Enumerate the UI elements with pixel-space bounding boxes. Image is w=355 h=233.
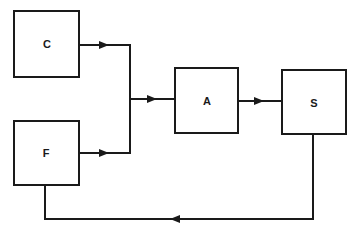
- arrow-head-icon: [254, 97, 264, 105]
- node-f: F: [14, 121, 79, 185]
- node-c-label: C: [43, 38, 51, 50]
- node-c: C: [14, 11, 79, 77]
- node-a-label: A: [203, 95, 211, 107]
- arrow-head-icon: [170, 215, 180, 223]
- arrow-head-icon: [99, 149, 109, 157]
- edge-c-to-junction: [79, 41, 130, 49]
- edge-feedback-s-to-f: [45, 134, 313, 223]
- node-s-label: S: [310, 97, 317, 109]
- node-f-label: F: [43, 147, 50, 159]
- edge-junction-to-a: [130, 95, 175, 103]
- edge-a-to-s: [238, 97, 282, 105]
- block-diagram: C F A S: [0, 0, 355, 233]
- node-a: A: [175, 68, 238, 133]
- node-s: S: [282, 70, 346, 134]
- arrow-head-icon: [147, 95, 157, 103]
- arrow-head-icon: [99, 41, 109, 49]
- edge-f-to-junction: [79, 149, 130, 157]
